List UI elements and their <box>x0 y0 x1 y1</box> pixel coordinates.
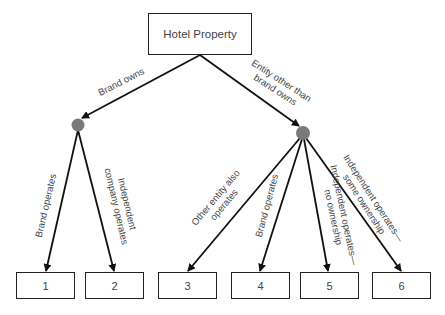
leaf-node-4: 4 <box>231 272 290 299</box>
decision-node-entity <box>296 126 310 140</box>
leaf-node-5: 5 <box>300 272 359 299</box>
edge-leaf-5 <box>304 139 328 271</box>
root-node: Hotel Property <box>148 13 252 55</box>
leaf-node-6: 6 <box>372 272 431 299</box>
leaf-node-1: 1 <box>16 272 75 299</box>
root-label: Hotel Property <box>163 28 237 40</box>
decision-node-brand <box>72 119 85 132</box>
leaf-node-2: 2 <box>85 272 144 299</box>
edge-leaf-2 <box>78 130 114 271</box>
leaf-node-3: 3 <box>158 272 217 299</box>
